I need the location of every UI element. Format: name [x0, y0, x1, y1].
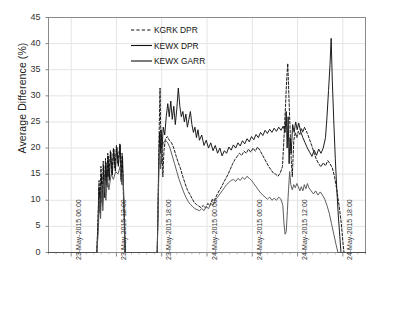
- y-tick-label: 40: [15, 39, 41, 48]
- legend-label-kewx-garr: KEWX GARR: [154, 56, 205, 66]
- legend-label-kgrk-dpr: KGRK DPR: [154, 25, 198, 35]
- legend-label-kewx-dpr: KEWX DPR: [154, 41, 199, 51]
- y-tick-label: 25: [15, 117, 41, 126]
- x-tick-label: 24-May-2015 12:00: [301, 199, 308, 260]
- chart-legend: KGRK DPRKEWX DPRKEWX GARR: [131, 25, 205, 66]
- x-tick-label: 24-May-2015 18:00: [346, 199, 353, 260]
- y-tick-label: 45: [15, 13, 41, 22]
- y-tick-label: 30: [15, 91, 41, 100]
- y-tick-label: 0: [15, 248, 41, 257]
- axis-tickmarks: [46, 18, 366, 257]
- y-tick-label: 35: [15, 65, 41, 74]
- x-tick-label: 23-May-2015 12:00: [120, 199, 127, 260]
- gridlines: [49, 18, 366, 253]
- x-tick-label: 23-May-2015 06:00: [75, 199, 82, 260]
- y-tick-label: 15: [15, 169, 41, 178]
- y-tick-label: 20: [15, 143, 41, 152]
- plot-area: KGRK DPRKEWX DPRKEWX GARR: [0, 0, 395, 331]
- y-tick-label: 10: [15, 195, 41, 204]
- chart-container: Average Difference (%) 05101520253035404…: [0, 0, 395, 331]
- y-tick-label: 5: [15, 221, 41, 230]
- x-tick-label: 24-May-2015 00:00: [211, 199, 218, 260]
- x-tick-label: 23-May-2015 18:00: [165, 199, 172, 260]
- x-tick-label: 24-May-2015 06:00: [256, 199, 263, 260]
